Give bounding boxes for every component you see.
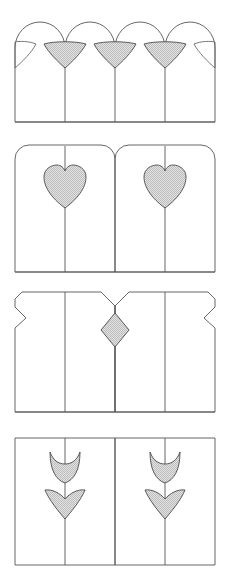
panel-motif-plate [0,0,231,580]
drawing-sheet [0,0,231,580]
sheet-background [0,0,231,580]
